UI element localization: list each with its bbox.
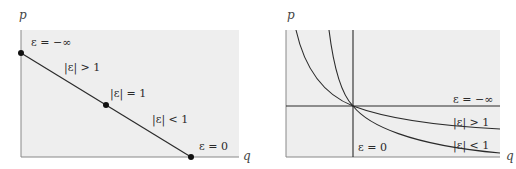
left-panel: p q ε = −∞ |ε| > 1 |ε| = 1 |ε| < 1 ε = 0	[18, 8, 251, 163]
label-right-elastic: |ε| > 1	[453, 116, 489, 130]
right-p-label: p	[287, 8, 295, 22]
label-right-inelastic: |ε| < 1	[453, 139, 489, 153]
point-midpoint	[103, 102, 109, 108]
label-unit-elastic: |ε| = 1	[110, 87, 146, 101]
right-q-label: q	[506, 149, 514, 163]
label-eps-zero: ε = 0	[199, 140, 228, 153]
label-elastic-region: |ε| > 1	[64, 61, 100, 75]
label-right-eps-neg-inf: ε = −∞	[453, 93, 493, 106]
elasticity-figure: p q ε = −∞ |ε| > 1 |ε| = 1 |ε| < 1 ε = 0…	[0, 0, 516, 169]
point-x-intercept	[188, 154, 194, 160]
point-y-intercept	[18, 50, 24, 56]
label-right-eps-zero: ε = 0	[358, 141, 387, 154]
left-p-label: p	[19, 8, 27, 22]
label-inelastic-region: |ε| < 1	[152, 113, 188, 127]
label-eps-neg-inf: ε = −∞	[31, 36, 71, 49]
right-panel: p q ε = −∞ |ε| > 1 |ε| < 1 ε = 0	[286, 8, 514, 163]
left-q-label: q	[243, 149, 251, 163]
